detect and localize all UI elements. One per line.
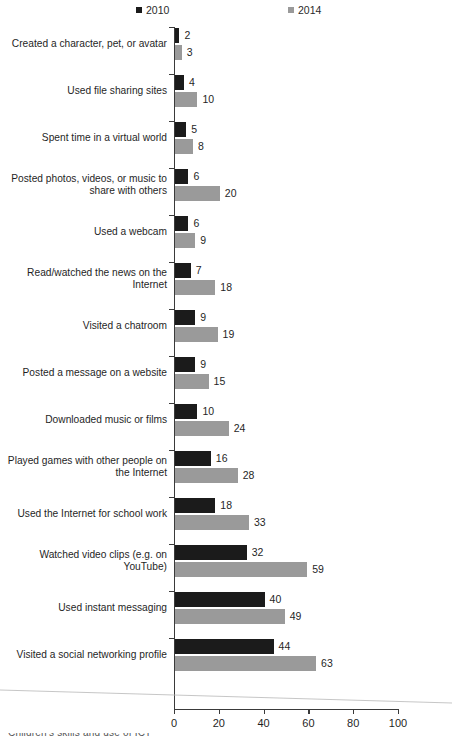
bar-2010 [175,122,186,137]
bar-value-label: 10 [202,404,214,419]
bar-2010 [175,216,188,231]
bar-2010 [175,75,184,90]
bar-value-label: 2 [184,28,190,43]
category-label: Used a webcam [0,226,167,238]
bar-value-label: 9 [200,310,206,325]
bar-2014 [175,233,195,248]
legend-swatch-2010 [136,7,142,13]
bar-value-label: 20 [225,186,237,201]
category-label: Created a character, pet, or avatar [0,38,167,50]
bar-2010 [175,310,195,325]
bar-value-label: 63 [321,656,333,671]
bar-value-label: 10 [202,92,214,107]
chart-category-group: Used a webcam69 [0,216,452,263]
category-label-line: Internet [0,279,167,291]
category-label: Posted photos, videos, or music toshare … [0,173,167,198]
bar-value-label: 9 [200,357,206,372]
bottom-clipped-caption-text: Children's skills and use of ICT [8,733,151,739]
chart-category-group: Used instant messaging4049 [0,592,452,639]
category-tick [169,262,174,263]
chart-category-group: Posted photos, videos, or music toshare … [0,169,452,216]
x-axis-tick [219,709,220,714]
category-label-line: share with others [0,185,167,197]
category-tick [169,356,174,357]
category-tick [169,544,174,545]
bar-2010 [175,639,274,654]
legend-label-2014: 2014 [298,4,321,16]
bar-2010 [175,357,195,372]
category-tick [169,121,174,122]
chart-legend: 2010 2014 [0,2,452,20]
chart-category-group: Used the Internet for school work1833 [0,498,452,545]
x-axis-tick [174,709,175,714]
category-tick [169,638,174,639]
chart-category-group: Posted a message on a website915 [0,357,452,404]
bar-value-label: 5 [191,122,197,137]
bar-value-label: 33 [254,515,266,530]
category-label: Used file sharing sites [0,85,167,97]
bar-value-label: 28 [243,468,255,483]
category-label: Used the Internet for school work [0,508,167,520]
chart-category-group: Read/watched the news on theInternet718 [0,263,452,310]
bar-value-label: 6 [193,169,199,184]
category-label-line: Watched video clips (e.g. on [0,549,167,561]
category-label-line: Downloaded music or films [0,414,167,426]
bar-2014 [175,421,229,436]
bottom-clipped-caption: Children's skills and use of ICT [0,733,452,741]
category-tick [169,450,174,451]
category-label-line: Posted photos, videos, or music to [0,173,167,185]
category-label: Played games with other people onthe Int… [0,455,167,480]
category-label-line: Visited a social networking profile [0,649,167,661]
category-tick [169,403,174,404]
category-label-line: the Internet [0,467,167,479]
category-tick [169,27,174,28]
category-tick [169,215,174,216]
legend-swatch-2014 [288,7,294,13]
plot-area: Created a character, pet, or avatar23Use… [0,27,452,711]
bar-2010 [175,498,215,513]
bar-2014 [175,92,197,107]
category-tick [169,591,174,592]
chart-category-group: Created a character, pet, or avatar23 [0,28,452,75]
category-label-line: YouTube) [0,561,167,573]
bar-2014 [175,327,218,342]
bar-2014 [175,609,285,624]
category-label: Used instant messaging [0,602,167,614]
category-label: Spent time in a virtual world [0,132,167,144]
category-tick [169,168,174,169]
x-axis-tick-label: 80 [347,717,359,730]
bar-2014 [175,280,215,295]
x-axis-tick [264,709,265,714]
legend-label-2010: 2010 [146,4,169,16]
bar-2014 [175,186,220,201]
category-label-line: Used a webcam [0,226,167,238]
category-label: Downloaded music or films [0,414,167,426]
category-tick [169,74,174,75]
bar-2010 [175,28,179,43]
bar-2014 [175,562,307,577]
x-axis-tick [353,709,354,714]
category-label-line: Played games with other people on [0,455,167,467]
x-axis-tick-label: 40 [257,717,269,730]
bar-value-label: 49 [290,609,302,624]
chart-category-group: Used file sharing sites410 [0,75,452,122]
category-label-line: Posted a message on a website [0,367,167,379]
bar-value-label: 3 [187,45,193,60]
bar-value-label: 19 [223,327,235,342]
bar-value-label: 6 [193,216,199,231]
bar-value-label: 32 [252,545,264,560]
chart-category-group: Watched video clips (e.g. onYouTube)3259 [0,545,452,592]
category-label: Read/watched the news on theInternet [0,267,167,292]
bar-2010 [175,592,265,607]
category-label-line: Used instant messaging [0,602,167,614]
bar-2014 [175,468,238,483]
category-label: Posted a message on a website [0,367,167,379]
category-label-line: Created a character, pet, or avatar [0,38,167,50]
bar-2014 [175,374,209,389]
category-label-line: Used the Internet for school work [0,508,167,520]
bar-2010 [175,451,211,466]
bar-2010 [175,545,247,560]
legend-item-2010: 2010 [136,4,169,16]
chart-category-group: Visited a chatroom919 [0,310,452,357]
bar-2014 [175,139,193,154]
